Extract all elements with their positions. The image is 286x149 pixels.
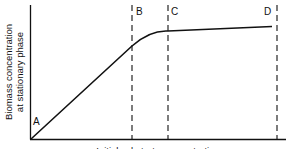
point-label-a: A [33, 116, 40, 127]
y-axis-label-line2: at stationary phase [14, 32, 25, 112]
point-label-d: D [264, 6, 271, 17]
biomass-diagram: A B C D Biomass concentration at station… [0, 0, 286, 149]
biomass-curve [31, 27, 272, 140]
point-label-b: B [136, 6, 143, 17]
x-axis-label: Initial substrate concentration [96, 145, 220, 149]
point-label-c: C [171, 6, 178, 17]
y-axis-label-line1: Biomass concentration [3, 24, 14, 120]
